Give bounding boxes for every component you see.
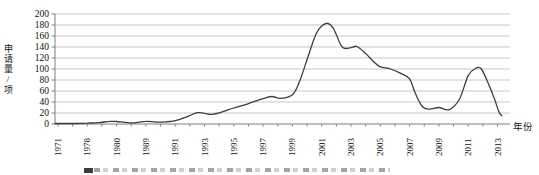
y-tick-label: 200 bbox=[35, 9, 50, 19]
y-tick-label: 180 bbox=[35, 20, 50, 30]
y-axis-title: 申请量/项 bbox=[3, 44, 13, 95]
x-tick-label: 2003 bbox=[346, 138, 356, 157]
clipped-caption-text-tops bbox=[94, 168, 390, 172]
x-tick-label: 1993 bbox=[200, 138, 210, 157]
x-axis-title: 年份 bbox=[513, 119, 533, 133]
y-tick-label: 100 bbox=[35, 64, 50, 74]
x-tick-label: 1989 bbox=[141, 138, 151, 157]
y-tick-label: 60 bbox=[40, 86, 50, 96]
x-tick-label: 2007 bbox=[405, 138, 415, 157]
y-tick-label: 140 bbox=[35, 42, 50, 52]
y-tick-label: 20 bbox=[40, 108, 50, 118]
clipped-caption bbox=[84, 168, 390, 175]
x-tick-label: 1978 bbox=[82, 138, 92, 157]
x-tick-label: 2013 bbox=[493, 138, 503, 157]
x-tick-label: 1980 bbox=[112, 138, 122, 157]
y-tick-label: 40 bbox=[40, 97, 50, 107]
axes bbox=[52, 14, 511, 127]
x-tick-label: 2005 bbox=[375, 138, 385, 157]
chart-canvas: 020406080100120140160180200 197119781980… bbox=[0, 0, 539, 175]
x-tick-label: 1995 bbox=[229, 138, 239, 157]
y-axis-tick-labels: 020406080100120140160180200 bbox=[35, 9, 50, 129]
y-tick-label: 80 bbox=[40, 75, 50, 85]
x-tick-label: 1991 bbox=[170, 138, 180, 156]
x-tick-label: 2001 bbox=[317, 138, 327, 156]
y-tick-label: 120 bbox=[35, 53, 50, 63]
x-tick-label: 1997 bbox=[258, 138, 268, 157]
y-tick-label: 0 bbox=[44, 119, 49, 129]
x-tick-label: 1971 bbox=[53, 138, 63, 156]
x-tick-label: 2011 bbox=[463, 138, 473, 156]
data-series-line bbox=[55, 23, 502, 123]
clipped-caption-first-glyph bbox=[84, 168, 93, 173]
x-axis-tick-labels: 1971197819801989199119931995199719992001… bbox=[53, 138, 503, 157]
line-chart-figure: 020406080100120140160180200 197119781980… bbox=[0, 0, 539, 175]
x-tick-label: 2009 bbox=[434, 138, 444, 157]
x-tick-label: 1999 bbox=[287, 138, 297, 157]
y-tick-label: 160 bbox=[35, 31, 50, 41]
